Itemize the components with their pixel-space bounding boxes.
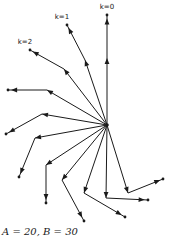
arrowhead-icon — [20, 167, 24, 173]
arrowhead-icon — [68, 28, 73, 34]
path-line — [107, 125, 163, 193]
arrowhead-icon — [64, 69, 70, 75]
arrowhead-icon — [47, 90, 53, 95]
endpoint-dot — [106, 14, 109, 17]
endpoint-dot — [147, 199, 150, 202]
arrowhead-icon — [139, 197, 145, 202]
caption: A = 20, B = 30 — [2, 226, 78, 237]
path-line — [8, 90, 107, 125]
arrowhead-icon — [77, 211, 82, 217]
arrowhead-icon — [124, 187, 129, 193]
endpoint-dot — [29, 49, 32, 52]
endpoint-dot — [45, 202, 48, 205]
path-line — [6, 114, 107, 134]
k-label: k=0 — [100, 3, 114, 11]
path-k2 — [29, 49, 107, 125]
arrowhead-icon — [85, 60, 90, 66]
path-line — [67, 25, 107, 125]
path-k1 — [66, 24, 107, 125]
arrowhead-icon — [105, 18, 110, 24]
path-line — [19, 125, 107, 177]
spiral-path-diagram: k=0k=1k=2 — [0, 0, 170, 241]
arrowhead-icon — [42, 113, 48, 118]
endpoint-dot — [83, 220, 86, 223]
arrowhead-icon — [33, 52, 39, 57]
endpoint-dot — [5, 133, 8, 136]
endpoint-dot — [66, 24, 69, 27]
arrowhead-icon — [11, 88, 17, 93]
arrowhead-icon — [46, 160, 52, 165]
path-k10 — [107, 125, 164, 193]
endpoint-dot — [162, 178, 165, 181]
endpoint-dot — [124, 216, 127, 219]
k-label: k=1 — [55, 13, 69, 21]
arrowhead-icon — [9, 127, 15, 132]
endpoint-dot — [18, 176, 21, 179]
arrowhead-icon — [84, 187, 89, 193]
path-k5 — [18, 125, 107, 178]
path-k3 — [7, 88, 107, 125]
arrowhead-icon — [105, 58, 110, 64]
hub-dot — [105, 123, 109, 127]
path-k8 — [84, 125, 127, 218]
arrowhead-icon — [35, 135, 41, 140]
arrowhead-icon — [115, 210, 121, 215]
arrowhead-icon — [104, 192, 109, 198]
path-k0 — [105, 14, 110, 125]
endpoint-dot — [7, 89, 10, 92]
arrowhead-icon — [154, 180, 160, 184]
path-line — [84, 125, 125, 217]
k-label: k=2 — [18, 38, 32, 46]
arrowhead-icon — [44, 194, 49, 200]
